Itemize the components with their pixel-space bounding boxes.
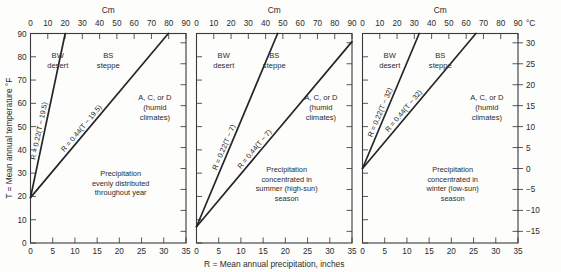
top-tick-label-3-8: 80 [496,19,506,28]
zone-label-humid-1: A, C, or D [138,93,172,102]
left-tick-label-9: 90 [17,30,27,39]
zone-sublabel-bw-2: desert [213,61,235,70]
zone-label-bw-2: BW [218,51,231,60]
left-tick-label-8: 80 [17,53,27,62]
zone-label-bs-2: BS [269,51,279,60]
top-tick-label-3-7: 70 [479,19,489,28]
bottom-tick-label-3-1: 5 [382,247,387,256]
top-tick-label-2-3: 30 [244,19,254,28]
top-tick-label-2-8: 80 [330,19,340,28]
left-tick-label-6: 60 [17,99,27,108]
top-tick-label-3-1: 10 [375,19,385,28]
top-tick-label-3-0: 0 [360,19,365,28]
top-tick-label-1-5: 50 [112,19,122,28]
bottom-tick-label-1-1: 5 [50,247,55,256]
equation-group-1-inner: R = 0.22(T − 19.5) [28,101,49,160]
top-tick-label-1-4: 40 [95,19,105,28]
left-tick-label-7: 70 [17,76,27,85]
left-tick-label-3: 30 [17,169,27,178]
bottom-tick-label-3-2: 10 [402,247,412,256]
right-tick-label-4: 5 [526,144,531,153]
bottom-tick-label-3-5: 25 [469,247,479,256]
figure-svg: CmCmCm0102030405060708090051015202530350… [0,0,561,272]
left-tick-label-4: 40 [17,146,27,155]
top-tick-label-3-6: 60 [462,19,472,28]
zone-sublabel-bw-3: desert [379,61,401,70]
bottom-axis-title: R = Mean annual precipitation, inches [204,259,344,269]
right-tick-label-1: −10 [526,206,540,215]
equation-label-1-outer: R = 0.44(T − 19.5) [59,103,104,154]
note-line-1-1: Precipitation [100,169,141,178]
left-tick-label-1: 10 [17,216,27,225]
left-axis-title: T = Mean annual temperature °F [4,78,14,199]
note-line-2-2: concentrated in [261,175,312,184]
bottom-tick-label-1-6: 30 [159,247,169,256]
top-axis-title-2: Cm [268,5,281,15]
top-axis-title-3: Cm [434,5,447,15]
right-tick-label-7: 20 [526,81,536,90]
top-tick-label-1-2: 20 [61,19,71,28]
zone-sublabel-humid2-1: climates) [140,113,171,122]
right-tick-label-0: −15 [526,227,540,236]
top-tick-label-1-6: 60 [130,19,140,28]
note-line-3-1: Precipitation [432,165,473,174]
top-axis-title-1: Cm [102,5,115,15]
note-line-2-1: Precipitation [266,165,307,174]
bottom-tick-label-3-3: 15 [425,247,435,256]
right-tick-label-5: 10 [526,123,536,132]
note-line-2-3: summer (high-sun) [256,184,318,193]
note-line-3-3: winter (low-sun) [426,184,479,193]
zone-sublabel-humid2-2: climates) [306,113,337,122]
zone-label-humid-3: A, C, or D [470,93,504,102]
bottom-tick-label-2-0: 0 [194,247,199,256]
top-tick-label-3-9: 90 [513,19,523,28]
left-tick-label-2: 20 [17,192,27,201]
note-line-3-4: season [441,194,465,203]
top-tick-label-1-9: 90 [181,19,191,28]
zone-sublabel-bs-3: steppe [429,61,452,70]
bottom-tick-label-3-6: 30 [491,247,501,256]
top-tick-label-1-7: 70 [147,19,157,28]
bottom-tick-label-3-7: 35 [513,247,523,256]
bottom-tick-label-2-2: 10 [236,247,246,256]
top-tick-label-1-0: 0 [28,19,33,28]
top-tick-label-2-2: 20 [227,19,237,28]
zone-label-bw-1: BW [52,51,65,60]
bottom-tick-label-2-1: 5 [216,247,221,256]
zone-label-bw-3: BW [384,51,397,60]
bottom-tick-label-3-4: 20 [447,247,457,256]
left-axis-title-group: T = Mean annual temperature °F [4,78,14,199]
zone-sublabel-bs-2: steppe [263,61,286,70]
bottom-tick-label-1-5: 25 [137,247,147,256]
top-tick-label-2-5: 50 [278,19,288,28]
top-tick-label-2-1: 10 [209,19,219,28]
zone-label-bs-1: BS [103,51,113,60]
bottom-tick-label-2-5: 25 [303,247,313,256]
top-tick-label-3-3: 30 [410,19,420,28]
zone-sublabel-humid1-3: (humid [475,103,498,112]
top-tick-label-3-5: 50 [444,19,454,28]
bottom-tick-label-2-7: 35 [347,247,357,256]
top-tick-label-2-7: 70 [313,19,323,28]
zone-sublabel-humid2-3: climates) [472,113,503,122]
equation-label-1-inner: R = 0.22(T − 19.5) [28,101,49,160]
top-tick-label-1-3: 30 [78,19,88,28]
zone-label-humid-2: A, C, or D [304,93,338,102]
top-tick-label-2-9: 90 [347,19,357,28]
zone-sublabel-bs-1: steppe [97,61,120,70]
top-tick-label-3-2: 20 [393,19,403,28]
bottom-tick-label-2-4: 20 [281,247,291,256]
top-tick-label-2-0: 0 [194,19,199,28]
right-tick-label-2: −5 [526,185,536,194]
bottom-tick-label-2-6: 30 [325,247,335,256]
left-tick-label-5: 50 [17,123,27,132]
top-tick-label-1-1: 10 [43,19,53,28]
right-tick-label-3: 0 [526,165,531,174]
note-line-1-3: throughout year [95,188,147,197]
bottom-tick-label-1-7: 35 [181,247,191,256]
note-line-2-4: season [275,194,299,203]
right-tick-label-9: 30 [526,39,536,48]
bottom-tick-label-1-2: 10 [70,247,80,256]
top-tick-label-2-6: 60 [296,19,306,28]
zone-sublabel-humid1-2: (humid [309,103,332,112]
